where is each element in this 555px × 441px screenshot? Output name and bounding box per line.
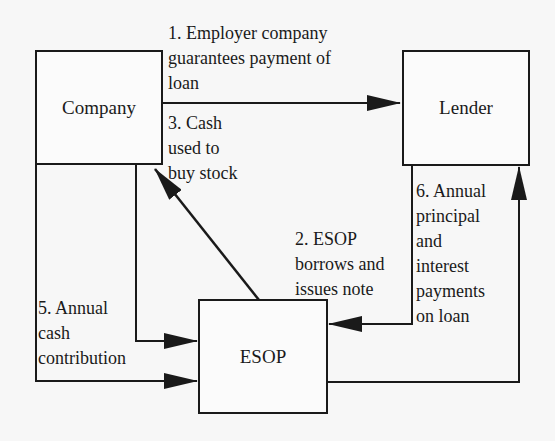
node-lender-label: Lender	[439, 97, 493, 119]
node-company-label: Company	[62, 97, 136, 119]
arrow-cash-for-stock	[155, 169, 259, 300]
node-esop: ESOP	[198, 299, 328, 414]
node-esop-label: ESOP	[240, 346, 286, 368]
edge-label-3: 3. Cash used to buy stock	[168, 111, 238, 186]
edge-label-5: 5. Annual cash contribution	[38, 296, 126, 371]
edge-label-2: 2. ESOP borrows and issues note	[295, 227, 384, 302]
node-lender: Lender	[402, 50, 530, 166]
node-company: Company	[35, 50, 163, 165]
edge-label-6: 6. Annual principal and interest payment…	[416, 179, 486, 329]
edge-label-1: 1. Employer company guarantees payment o…	[168, 21, 331, 96]
arrow-stock-contribution	[136, 164, 197, 341]
